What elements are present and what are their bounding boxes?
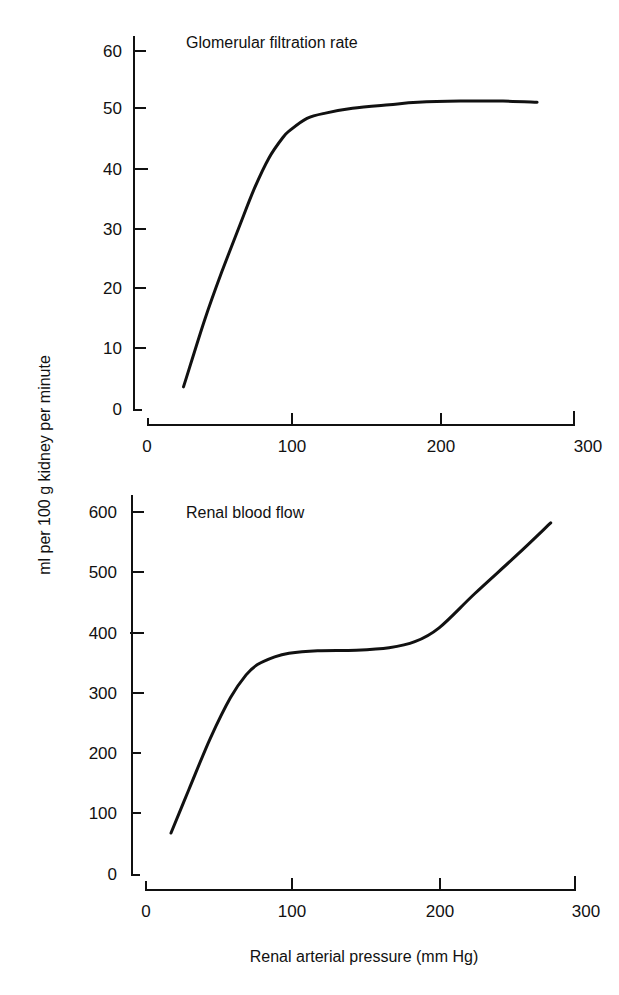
y-tick-label: 10 [103,339,122,358]
figure-canvas: ml per 100 g kidney per minute Glomerula… [0,0,619,995]
x-tick-label: 200 [426,902,454,921]
y-tick-label: 300 [89,684,117,703]
x-axis-label: Renal arterial pressure (mm Hg) [250,948,479,965]
y-tick-labels-gfr: 60 50 40 30 20 10 0 [103,42,122,419]
y-tick-label: 40 [103,160,122,179]
x-tick-label: 300 [574,437,602,456]
y-axis-rbf [132,495,140,875]
x-tick-labels-rbf: 0 100 200 300 [141,902,600,921]
x-tick-label: 200 [427,437,455,456]
y-tick-label: 100 [89,804,117,823]
y-tick-label: 200 [89,744,117,763]
chart-title-rbf: Renal blood flow [186,504,305,521]
x-tick-label: 0 [141,902,150,921]
x-tick-label: 300 [572,902,600,921]
y-tick-label: 0 [113,400,122,419]
rbf-curve [171,523,551,833]
y-tick-label: 60 [103,42,122,61]
y-tick-label: 500 [89,563,117,582]
y-tick-label: 0 [108,865,117,884]
y-tick-labels-rbf: 600 500 400 300 200 100 0 [89,503,117,884]
chart-gfr: Glomerular filtration rate 60 50 40 30 2… [103,34,602,456]
y-tick-label: 600 [89,503,117,522]
x-tick-labels-gfr: 0 100 200 300 [142,437,602,456]
x-tick-label: 100 [278,437,306,456]
gfr-curve [184,101,538,387]
y-ticks-gfr [134,51,148,348]
y-axis-gfr [134,36,142,410]
chart-title-gfr: Glomerular filtration rate [186,34,358,51]
y-tick-label: 50 [103,99,122,118]
chart-rbf: Renal blood flow 600 500 400 300 200 100… [89,495,601,921]
x-axis-rbf [146,876,575,890]
x-axis-gfr [148,411,574,425]
x-tick-label: 0 [142,437,151,456]
y-tick-label: 20 [103,279,122,298]
y-axis-label: ml per 100 g kidney per minute [36,355,53,575]
y-tick-label: 400 [89,624,117,643]
x-tick-label: 100 [278,902,306,921]
y-tick-label: 30 [103,220,122,239]
